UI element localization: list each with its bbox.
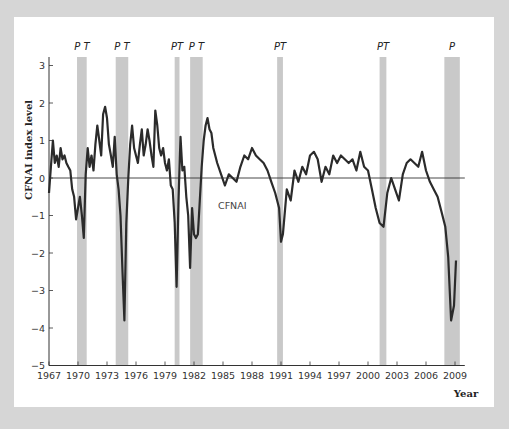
x-tick-label: 2009 xyxy=(443,370,467,381)
x-tick-label: 1979 xyxy=(153,370,177,381)
recession-band-label: P T xyxy=(114,41,130,52)
y-tick-label: −1 xyxy=(31,210,45,221)
recession-band-label: PT xyxy=(274,41,287,52)
x-tick-label: 1991 xyxy=(269,370,293,381)
recession-band-label: P T xyxy=(74,41,90,52)
x-tick-label: 1982 xyxy=(182,370,206,381)
y-tick-label: 3 xyxy=(39,60,45,71)
recession-band-label: P T xyxy=(189,41,205,52)
cfnai-series-line xyxy=(49,107,456,321)
recession-band-label: PT xyxy=(171,41,184,52)
x-tick-label: 1973 xyxy=(95,370,119,381)
x-tick-label: 1985 xyxy=(211,370,235,381)
y-tick-label: 1 xyxy=(39,135,45,146)
x-tick-label: 1997 xyxy=(327,370,351,381)
y-tick-label: −2 xyxy=(31,248,45,259)
recession-bands xyxy=(77,57,460,366)
x-tick-label: 1967 xyxy=(37,370,61,381)
recession-band-label: PT xyxy=(377,41,390,52)
cfnai-line-chart: P TP TPTP TPTPTP 3210−1−2−3−4−5196719701… xyxy=(0,0,509,429)
x-tick-label: 2000 xyxy=(356,370,380,381)
x-tick-label: 2006 xyxy=(414,370,438,381)
y-tick-label: 2 xyxy=(39,98,45,109)
x-tick-label: 1988 xyxy=(240,370,264,381)
y-tick-label: 0 xyxy=(39,173,45,184)
x-tick-label: 1994 xyxy=(298,370,322,381)
x-tick-label: 1970 xyxy=(66,370,90,381)
y-tick-label: −4 xyxy=(31,323,45,334)
series-label: CFNAI xyxy=(218,200,247,211)
x-tick-label: 2003 xyxy=(385,370,409,381)
recession-band-labels: P TP TPTP TPTPTP xyxy=(74,41,456,52)
y-tick-label: −3 xyxy=(31,285,45,296)
x-axis-title: Year xyxy=(453,388,479,399)
x-tick-label: 1976 xyxy=(124,370,148,381)
recession-band-label: P xyxy=(449,41,456,52)
axes: 3210−1−2−3−4−519671970197319761979198219… xyxy=(31,57,467,381)
y-axis-title: CFNAI index level xyxy=(23,100,34,200)
